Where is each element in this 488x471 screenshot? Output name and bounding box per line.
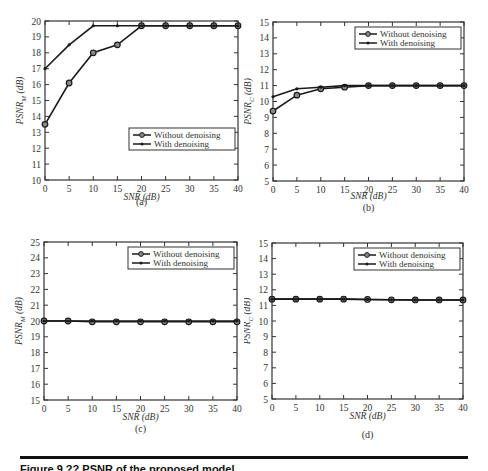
data-point-dot bbox=[188, 24, 191, 27]
x-tick-label: 25 bbox=[387, 403, 397, 413]
y-tick-label: 13 bbox=[32, 128, 42, 138]
y-tick-label: 25 bbox=[31, 238, 41, 248]
data-point-circle bbox=[42, 122, 48, 128]
plot-frame bbox=[45, 21, 238, 180]
data-point-dot bbox=[68, 43, 71, 46]
legend: Without denoisingWith denoising bbox=[355, 27, 461, 49]
data-point-circle bbox=[294, 92, 300, 98]
y-tick-label: 6 bbox=[263, 379, 268, 389]
x-tick-label: 30 bbox=[411, 403, 421, 413]
y-tick-label: 11 bbox=[260, 81, 269, 91]
y-tick-label: 15 bbox=[259, 239, 269, 249]
data-point-dot bbox=[367, 84, 370, 87]
x-tick-label: 5 bbox=[67, 184, 72, 194]
y-tick-label: 9 bbox=[263, 332, 268, 342]
legend-entry: With denoising bbox=[379, 259, 434, 269]
data-point-circle bbox=[90, 50, 96, 56]
x-tick-label: 40 bbox=[458, 403, 468, 413]
y-tick-label: 19 bbox=[31, 332, 41, 342]
data-point-dot bbox=[366, 298, 369, 301]
y-tick-label: 16 bbox=[31, 380, 41, 390]
data-point-dot bbox=[42, 319, 45, 322]
series-line bbox=[45, 26, 238, 69]
chart-b: 051015202530354056789101112131415SNR (dB… bbox=[244, 0, 488, 230]
y-tick-label: 13 bbox=[260, 49, 270, 59]
caption-divider bbox=[20, 456, 468, 459]
x-tick-label: 0 bbox=[42, 404, 47, 414]
y-tick-label: 13 bbox=[259, 270, 269, 280]
figure-caption: Figure 9.?? PSNR of the proposed model..… bbox=[20, 463, 244, 471]
x-tick-label: 10 bbox=[89, 184, 99, 194]
y-tick-label: 10 bbox=[260, 97, 270, 107]
data-point-circle bbox=[115, 42, 121, 48]
data-point-dot bbox=[414, 298, 417, 301]
panel-label: (b) bbox=[363, 202, 375, 214]
legend-entry: With denoising bbox=[153, 258, 208, 268]
x-tick-label: 25 bbox=[388, 185, 398, 195]
x-tick-label: 0 bbox=[270, 403, 275, 413]
y-tick-label: 12 bbox=[260, 65, 270, 75]
y-tick-label: 17 bbox=[31, 364, 41, 374]
x-tick-label: 15 bbox=[340, 185, 350, 195]
chart-panel-d: 051015202530354056789101112131415SNR (dB… bbox=[244, 230, 488, 450]
x-tick-label: 40 bbox=[232, 404, 242, 414]
data-point-dot bbox=[235, 319, 238, 322]
x-tick-label: 35 bbox=[435, 185, 445, 195]
data-point-dot bbox=[91, 319, 94, 322]
panel-label: (a) bbox=[136, 196, 147, 208]
x-tick-label: 35 bbox=[434, 403, 444, 413]
data-point-dot bbox=[391, 84, 394, 87]
x-axis-label: SNR (dB) bbox=[350, 191, 386, 202]
y-axis-label: PSNRC (dB) bbox=[244, 298, 255, 346]
data-point-dot bbox=[92, 24, 95, 27]
x-tick-label: 10 bbox=[315, 403, 325, 413]
x-tick-label: 30 bbox=[185, 184, 195, 194]
y-tick-label: 15 bbox=[32, 96, 42, 106]
data-point-circle bbox=[66, 80, 72, 86]
x-tick-label: 15 bbox=[339, 403, 349, 413]
y-tick-label: 16 bbox=[32, 80, 42, 90]
data-point-circle bbox=[270, 108, 276, 114]
legend: Without denoisingWith denoising bbox=[128, 247, 234, 269]
y-tick-label: 20 bbox=[32, 17, 42, 27]
data-point-dot bbox=[211, 319, 214, 322]
y-tick-label: 22 bbox=[31, 285, 41, 295]
data-point-dot bbox=[271, 95, 274, 98]
x-tick-label: 30 bbox=[184, 404, 194, 414]
data-point-dot bbox=[164, 24, 167, 27]
y-tick-label: 14 bbox=[32, 112, 42, 122]
y-axis-label: PSNRM (dB) bbox=[14, 297, 27, 346]
data-point-dot bbox=[163, 319, 166, 322]
y-tick-label: 14 bbox=[260, 33, 270, 43]
data-point-dot bbox=[295, 87, 298, 90]
panel-label: (d) bbox=[362, 429, 374, 441]
y-tick-label: 18 bbox=[32, 48, 42, 58]
data-point-dot bbox=[318, 298, 321, 301]
x-tick-label: 15 bbox=[112, 404, 122, 414]
x-axis-label: SNR (dB) bbox=[122, 412, 158, 423]
data-point-dot bbox=[438, 298, 441, 301]
y-tick-label: 8 bbox=[263, 348, 268, 358]
chart-panel-c: 05101520253035401516171819202122232425SN… bbox=[0, 230, 244, 450]
y-tick-label: 9 bbox=[264, 113, 269, 123]
y-tick-label: 7 bbox=[263, 363, 268, 373]
y-tick-label: 6 bbox=[264, 161, 269, 171]
x-tick-label: 25 bbox=[161, 184, 171, 194]
x-tick-label: 5 bbox=[295, 185, 300, 195]
x-tick-label: 30 bbox=[412, 185, 422, 195]
y-tick-label: 5 bbox=[263, 395, 268, 405]
chart-c: 05101520253035401516171819202122232425SN… bbox=[0, 230, 244, 450]
y-tick-label: 17 bbox=[32, 64, 42, 74]
legend: Without denoisingWith denoising bbox=[354, 248, 460, 270]
data-point-dot bbox=[67, 319, 70, 322]
y-tick-label: 8 bbox=[264, 129, 269, 139]
data-point-dot bbox=[43, 67, 46, 70]
data-point-dot bbox=[294, 298, 297, 301]
x-tick-label: 15 bbox=[113, 184, 123, 194]
x-axis-label: SNR (dB) bbox=[349, 411, 385, 422]
y-axis-label: PSNRC (dB) bbox=[244, 78, 256, 126]
x-tick-label: 5 bbox=[66, 404, 71, 414]
y-tick-label: 15 bbox=[31, 396, 41, 406]
y-tick-label: 18 bbox=[31, 348, 41, 358]
x-tick-label: 10 bbox=[316, 185, 326, 195]
